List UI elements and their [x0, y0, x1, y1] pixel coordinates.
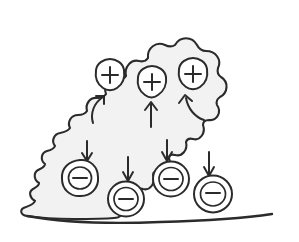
positive-charge-middle	[138, 66, 166, 97]
negative-charge-2	[108, 182, 144, 217]
positive-charge-left	[96, 59, 124, 90]
negative-charge-1	[62, 160, 98, 196]
positive-charge-right	[179, 58, 207, 89]
figure-root	[0, 0, 299, 242]
cloud-charge-diagram	[0, 0, 299, 242]
negative-charge-3	[153, 162, 189, 197]
down-arrow-4	[204, 152, 214, 176]
negative-charge-4	[194, 176, 232, 213]
